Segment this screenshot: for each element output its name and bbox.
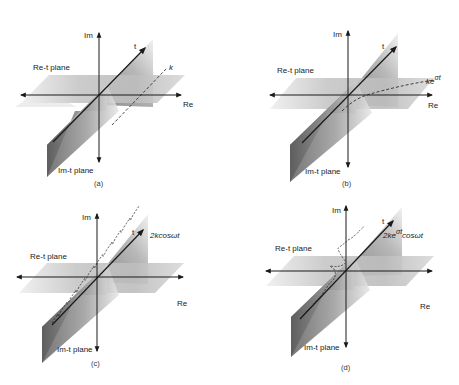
t-label: t — [134, 42, 137, 51]
caption: (d) — [341, 363, 351, 372]
im-label: Im — [82, 213, 91, 222]
caption: (a) — [94, 179, 104, 188]
t-label: t — [382, 217, 385, 226]
figure-canvas: Im t k Re-t plane Re Im-t plane (a) Im t… — [0, 0, 459, 385]
im-label: Im — [333, 30, 342, 39]
im-t-plane-label: Im-t plane — [305, 167, 341, 176]
im-t-plane-label: Im-t plane — [304, 343, 340, 352]
curve-label-tail: cosωt — [402, 231, 424, 240]
re-label: Re — [428, 101, 439, 110]
panel-a: Im t k Re-t plane Re Im-t plane (a) — [15, 31, 194, 188]
caption: (c) — [91, 359, 100, 368]
re-label: Re — [183, 100, 194, 109]
curve-label-sup: σt — [434, 74, 441, 81]
curve-label: keσt — [426, 74, 442, 86]
re-label: Re — [177, 299, 188, 308]
re-t-plane-label: Re-t plane — [30, 252, 67, 261]
im-t-plane-label: Im-t plane — [57, 345, 93, 354]
re-label: Re — [420, 302, 431, 311]
re-t-plane-label: Re-t plane — [277, 66, 314, 75]
curve-label-base: 2ke — [382, 231, 396, 240]
re-t-plane-front — [15, 103, 77, 107]
im-label: Im — [84, 31, 93, 40]
re-t-plane-label: Re-t plane — [275, 244, 312, 253]
curve-label: 2kcosωt — [149, 231, 180, 240]
t-label: t — [382, 42, 385, 51]
panel-b: Im t keσt Re-t plane Re Im-t plane (b) — [270, 30, 442, 188]
im-label: Im — [332, 206, 341, 215]
im-t-plane-label: Im-t plane — [58, 166, 94, 175]
panel-c: Im t 2kcosωt Re-t plane Re Im-t plane (c… — [17, 206, 188, 368]
caption: (b) — [342, 179, 352, 188]
curve-label: k — [169, 63, 174, 72]
panel-d: Im t 2keσtcosωt Re-t plane Re Im-t plane… — [266, 206, 434, 372]
re-t-plane-label: Re-t plane — [33, 63, 70, 72]
